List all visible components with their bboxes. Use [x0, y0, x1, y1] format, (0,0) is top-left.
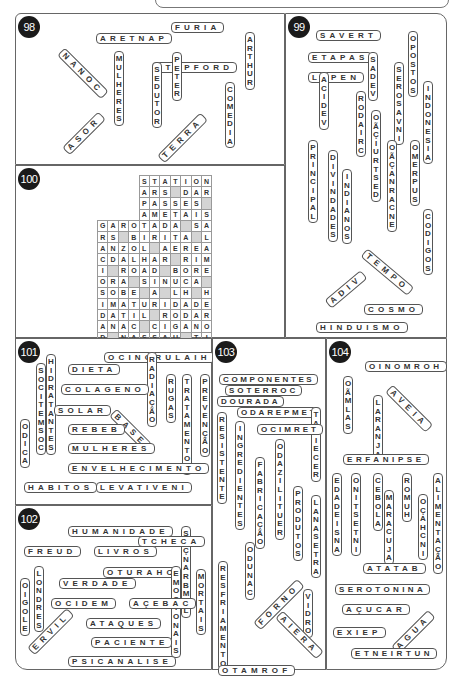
word-ingredientes[interactable]: INGREDIENTES [235, 421, 245, 530]
word-oigole[interactable]: OIGOLE [20, 578, 30, 636]
word-alimentacao[interactable]: ALIMENTAÇÃO [433, 473, 443, 574]
word-tempo[interactable]: TEMPO [360, 248, 414, 296]
word-odarepmet[interactable]: ODAREPMET [237, 407, 321, 418]
word-divindades[interactable]: DIVINDADES [328, 150, 338, 242]
puzzle-99: 99 SAVERT ETAPAS SADEV LAPEN ACIDEV RODA… [285, 13, 447, 338]
puzzle-number-badge: 99 [288, 16, 310, 38]
word-prevencao[interactable]: PREVENÇÃO [200, 374, 210, 457]
puzzle-number-badge: 103 [215, 341, 237, 363]
word-produtos[interactable]: PRODUTOS [293, 486, 303, 561]
word-odica[interactable]: ODICA [20, 419, 30, 468]
word-savert[interactable]: SAVERT [316, 30, 381, 41]
word-aiera[interactable]: AIERA [275, 611, 324, 660]
word-rugas[interactable]: RUGAS [166, 374, 176, 423]
word-ocimret[interactable]: OCIMRET [257, 424, 323, 435]
word-levativeni[interactable]: LEVATIVENI [96, 482, 192, 493]
puzzle-98: 98 ARETNAP FURIA NANOC MULHERES STEPFORD… [15, 13, 285, 165]
word-oaciurtsed[interactable]: OÃÇIURTSED [371, 110, 381, 202]
word-tratamentos[interactable]: TRATAMENTOS [182, 374, 192, 475]
word-romuh[interactable]: ROMUH [402, 473, 412, 522]
word-componentes[interactable]: COMPONENTES [219, 374, 318, 385]
word-acebac[interactable]: AÇEBAC [129, 598, 196, 609]
word-fabricacao[interactable]: FABRICAÇÃO [255, 457, 265, 549]
word-codigos[interactable]: CODIGOS [423, 209, 433, 275]
word-onitsetni[interactable]: ONITSETNI [351, 473, 361, 556]
word-terra[interactable]: TERRA [157, 113, 208, 164]
word-atiecer[interactable]: TATIECER [311, 407, 321, 482]
word-laranja[interactable]: LARANJA [373, 395, 383, 461]
word-livros[interactable]: LIVROS [94, 546, 157, 557]
word-odazilituer[interactable]: ODAZILITUER [275, 439, 285, 540]
word-solar[interactable]: SOLAR [54, 405, 111, 416]
word-indonesia[interactable]: INDONESIA [423, 81, 433, 164]
word-aveia[interactable]: AVEIA [385, 385, 433, 433]
word-mortais[interactable]: MORTAIS [196, 569, 206, 635]
word-serosavni[interactable]: SEROSAVNI [394, 62, 404, 145]
word-ocidem[interactable]: OCIDEM [51, 598, 116, 609]
word-verdade[interactable]: VERDADE [59, 578, 136, 589]
word-serotonina[interactable]: SEROTONINA [335, 584, 430, 595]
word-hidratantes[interactable]: HIDRATANTES [46, 354, 56, 455]
puzzle-101: 101 OCINORULAIH DIETA SOCITEMSOC HIDRATA… [15, 338, 212, 505]
word-atatab[interactable]: ATATAB [363, 563, 426, 574]
word-aretnap[interactable]: ARETNAP [96, 33, 172, 44]
word-ocinorulaih[interactable]: OCINORULAIH [104, 352, 215, 363]
puzzle-number-badge: 102 [18, 508, 40, 530]
word-vacidev[interactable]: ACIDEV [319, 72, 329, 130]
word-erfanipse[interactable]: ERFANIPSE [343, 454, 429, 465]
word-resfriamento[interactable]: RESFRIAMENTO [218, 561, 228, 670]
word-etneirtun[interactable]: ETNEIRTUN [351, 648, 437, 659]
word-dieta[interactable]: DIETA [68, 364, 120, 375]
puzzle-number-badge: 98 [18, 16, 40, 38]
word-maracuja[interactable]: MARACUJA [384, 490, 394, 565]
word-soterroc[interactable]: SOTERROC [225, 385, 302, 396]
word-cosmo[interactable]: COSMO [364, 304, 423, 315]
word-furia[interactable]: FURIA [171, 22, 224, 33]
word-ataques[interactable]: ATAQUES [86, 618, 161, 629]
word-vidro[interactable]: VIDRO [303, 589, 313, 638]
word-odunac[interactable]: ODUNAC [245, 542, 255, 600]
word-comedia[interactable]: COMEDIA [225, 82, 235, 148]
word-cebola[interactable]: CEBOLA [373, 473, 383, 531]
word-exiep[interactable]: EXIEP [333, 627, 386, 638]
word-oturahc[interactable]: OTURAHC [103, 567, 180, 578]
word-dourada[interactable]: DOURADA [217, 396, 284, 407]
word-arthur[interactable]: ARTHUR [245, 32, 255, 90]
word-indianos[interactable]: INDIANOS [342, 169, 352, 244]
word-etapas[interactable]: ETAPAS [308, 52, 372, 63]
word-acucar[interactable]: AÇUCAR [342, 604, 410, 615]
word-edadeisna[interactable]: EDADEISNA [332, 473, 342, 556]
word-habitos[interactable]: HABITOS [24, 482, 97, 493]
word-rodairc[interactable]: RODAIRC [356, 91, 366, 157]
word-sadev[interactable]: SADEV [368, 52, 378, 101]
word-stepford[interactable]: STEPFORD [152, 62, 237, 73]
word-ocahcni[interactable]: OÇAHCNI [418, 494, 428, 560]
word-oinomroh[interactable]: OINOMROH [365, 361, 447, 372]
word-emocionais[interactable]: EMOCIONAIS [171, 566, 181, 658]
word-asor[interactable]: ASOR [62, 111, 106, 155]
word-envelhecimento[interactable]: ENVELHECIMENTO [68, 463, 209, 474]
word-paciente[interactable]: PACIENTE [91, 637, 172, 648]
word-lanasetra[interactable]: LANASETRA [311, 495, 321, 578]
word-opostos[interactable]: OPOSTOS [408, 31, 418, 97]
word-hinduismo[interactable]: HINDUISMO [316, 322, 408, 333]
word-oamlas[interactable]: OÃMLAS [343, 376, 353, 434]
word-mulheres[interactable]: MULHERES [114, 51, 124, 126]
word-mulheres[interactable]: MULHERES [68, 443, 155, 454]
word-omerpus[interactable]: OMERPUS [410, 140, 420, 206]
word-lapen[interactable]: LAPEN [308, 72, 364, 83]
word-socitemsoc[interactable]: SOCITEMSOC [36, 363, 46, 455]
word-freud[interactable]: FREUD [24, 546, 81, 557]
word-rebeb[interactable]: REBEB [68, 424, 125, 435]
word-sedutor[interactable]: SEDUTOR [152, 62, 162, 128]
word-principal[interactable]: PRINCIPAL [308, 140, 318, 223]
word-resistente[interactable]: RESISTENTE [217, 412, 227, 504]
word-oacanracne[interactable]: OÃÇANRACNE [387, 140, 397, 232]
word-adiv[interactable]: ADIV [324, 270, 367, 309]
word-otamrof[interactable]: OTAMROF [218, 665, 295, 676]
word-nanoc[interactable]: NANOC [57, 48, 109, 100]
word-londres[interactable]: LONDRES [34, 566, 44, 632]
word-colageno[interactable]: COLAGENO [61, 384, 149, 395]
word-peter[interactable]: PETER [172, 52, 182, 101]
word-psicanalise[interactable]: PSICANALISE [68, 656, 176, 667]
